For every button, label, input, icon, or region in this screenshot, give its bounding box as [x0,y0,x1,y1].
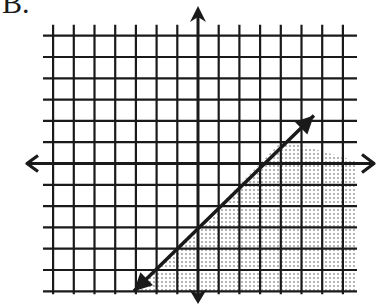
coordinate-graph [0,0,386,304]
